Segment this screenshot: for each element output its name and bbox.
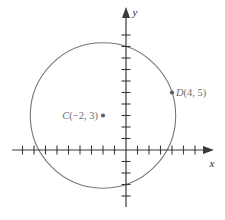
point-marker-D (170, 90, 174, 94)
geometry-figure: y x C(−2, 3) D(4, 5) (0, 0, 225, 220)
point-label-C-close: ) (95, 110, 99, 122)
point-label-D: D(4, 5) (175, 87, 207, 99)
x-axis (12, 146, 214, 155)
coordinate-plane-svg: y x C(−2, 3) D(4, 5) (0, 0, 225, 220)
y-axis-label: y (132, 6, 138, 18)
point-label-C-x: −2 (73, 110, 84, 121)
y-axis (122, 7, 131, 207)
x-axis-arrowhead (203, 146, 214, 154)
point-label-D-close: ) (203, 87, 207, 99)
point-marker-C (101, 113, 105, 117)
y-axis-arrowhead (122, 7, 130, 18)
x-axis-label: x (209, 157, 215, 169)
point-label-C: C(−2, 3) (62, 110, 98, 122)
